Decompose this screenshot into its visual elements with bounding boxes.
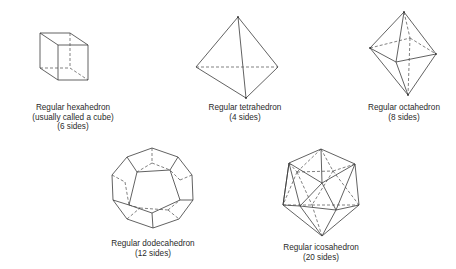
hexahedron-note: (usually called a cube) bbox=[32, 113, 113, 123]
hexahedron-sides: (6 sides) bbox=[32, 122, 113, 132]
hexahedron-caption: Regular hexahedron (usually called a cub… bbox=[32, 103, 113, 132]
icosahedron-drawing bbox=[283, 149, 359, 236]
dodecahedron-sides: (12 sides) bbox=[111, 249, 194, 259]
icosahedron-name: Regular icosahedron bbox=[283, 243, 359, 253]
octahedron-caption: Regular octahedron (8 sides) bbox=[368, 103, 440, 122]
polyhedra-diagram bbox=[0, 0, 456, 269]
icosahedron-sides: (20 sides) bbox=[283, 253, 359, 263]
octahedron-sides: (8 sides) bbox=[368, 113, 440, 123]
dodecahedron-caption: Regular dodecahedron (12 sides) bbox=[111, 239, 194, 258]
tetrahedron-name: Regular tetrahedron bbox=[209, 103, 282, 113]
tetrahedron-caption: Regular tetrahedron (4 sides) bbox=[209, 103, 282, 122]
tetrahedron-sides: (4 sides) bbox=[209, 113, 282, 123]
hexahedron-name: Regular hexahedron bbox=[32, 103, 113, 113]
dodecahedron-drawing bbox=[112, 148, 193, 228]
octahedron-drawing bbox=[369, 11, 437, 96]
octahedron-name: Regular octahedron bbox=[368, 103, 440, 113]
icosahedron-caption: Regular icosahedron (20 sides) bbox=[283, 243, 359, 262]
dodecahedron-name: Regular dodecahedron bbox=[111, 239, 194, 249]
hexahedron-drawing bbox=[40, 33, 88, 80]
tetrahedron-drawing bbox=[196, 16, 278, 99]
